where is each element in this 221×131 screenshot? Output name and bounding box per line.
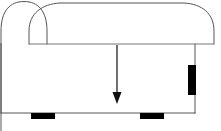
foot-left xyxy=(31,113,55,119)
figure-root xyxy=(0,0,221,131)
foot-right xyxy=(140,113,164,119)
canvas-background xyxy=(0,0,221,131)
side-tab xyxy=(188,65,196,95)
line-drawing-canvas xyxy=(0,0,221,131)
